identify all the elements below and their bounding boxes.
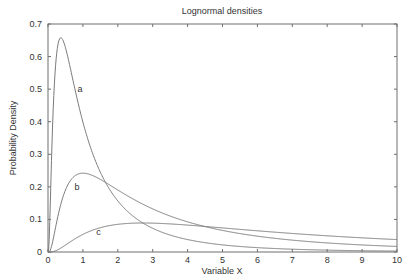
- y-tick-label: 0.5: [29, 84, 42, 94]
- y-axis-title: Probability Density: [8, 100, 18, 175]
- curve-a: [48, 38, 397, 252]
- y-axis: 00.10.20.30.40.50.60.7: [29, 19, 397, 257]
- x-tick-label: 10: [392, 255, 402, 265]
- curve-labels: abc: [74, 84, 101, 237]
- plot-area: 012345678910 00.10.20.30.40.50.60.7 abc: [29, 19, 402, 265]
- y-tick-label: 0.4: [29, 117, 42, 127]
- x-tick-label: 6: [255, 255, 260, 265]
- chart-title: Lognormal densities: [182, 6, 263, 16]
- y-tick-label: 0.6: [29, 52, 42, 62]
- x-tick-label: 4: [185, 255, 190, 265]
- chart: Lognormal densities 012345678910 00.10.2…: [0, 0, 414, 280]
- y-tick-label: 0.1: [29, 214, 42, 224]
- curve-label-c: c: [96, 227, 101, 237]
- x-tick-label: 8: [325, 255, 330, 265]
- x-tick-label: 7: [290, 255, 295, 265]
- plot-frame: [48, 24, 397, 252]
- y-tick-label: 0.2: [29, 182, 42, 192]
- curve-b: [48, 173, 397, 252]
- x-tick-label: 3: [150, 255, 155, 265]
- x-axis-title: Variable X: [202, 266, 243, 276]
- curve-label-b: b: [74, 182, 79, 192]
- x-tick-label: 2: [115, 255, 120, 265]
- x-tick-label: 9: [360, 255, 365, 265]
- curve-label-a: a: [78, 84, 83, 94]
- y-tick-label: 0.3: [29, 149, 42, 159]
- y-tick-label: 0.7: [29, 19, 42, 29]
- y-tick-label: 0: [37, 247, 42, 257]
- x-tick-label: 5: [220, 255, 225, 265]
- x-tick-label: 1: [80, 255, 85, 265]
- x-tick-label: 0: [45, 255, 50, 265]
- curves: [48, 38, 397, 252]
